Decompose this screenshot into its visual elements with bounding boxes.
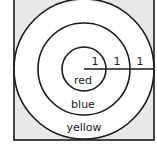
ring-label-red: red xyxy=(74,74,92,87)
ring-label-blue: blue xyxy=(71,98,95,111)
segment-label-1: 1 xyxy=(92,55,99,68)
ring-label-yellow: yellow xyxy=(66,121,101,134)
target-diagram: 1 1 1 red blue yellow xyxy=(0,0,157,151)
segment-label-3: 1 xyxy=(137,55,144,68)
segment-label-2: 1 xyxy=(114,55,121,68)
